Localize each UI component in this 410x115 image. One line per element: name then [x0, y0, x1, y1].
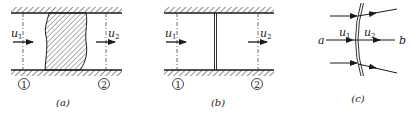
lower-streamline — [330, 63, 397, 73]
bottom-wall — [11, 70, 122, 76]
caption-c: (c) — [351, 93, 365, 104]
outlet-velocity-label: u2 — [108, 27, 120, 41]
bottom-wall — [164, 70, 274, 76]
svg-text:1: 1 — [175, 80, 181, 90]
panel-b: u1 u2 1 2 (b) — [164, 7, 274, 108]
caption-a: (a) — [56, 97, 70, 108]
svg-text:2: 2 — [254, 80, 260, 90]
inlet-velocity-label: u1 — [339, 26, 351, 40]
inlet-velocity-label: u1 — [165, 27, 177, 41]
svg-text:1: 1 — [21, 80, 27, 90]
section-marker-1: 1 — [19, 79, 30, 90]
panel-a: u1 u2 1 2 (a) — [11, 7, 122, 108]
panel-c: a b u1 u2 (c) — [318, 3, 406, 104]
caption-b: (b) — [211, 97, 225, 108]
top-wall — [164, 7, 274, 13]
outlet-velocity-label: u2 — [364, 26, 376, 40]
diagram-figure: u1 u2 1 2 (a) u1 u2 — [0, 0, 410, 115]
point-a-label: a — [318, 34, 325, 47]
discontinuity-plane — [215, 13, 217, 70]
upper-streamline — [330, 9, 397, 16]
point-b-label: b — [399, 34, 406, 47]
top-wall — [11, 7, 122, 13]
section-marker-2: 2 — [99, 79, 110, 90]
svg-text:2: 2 — [101, 80, 107, 90]
outlet-velocity-label: u2 — [260, 27, 272, 41]
section-marker-1: 1 — [173, 79, 184, 90]
inlet-velocity-label: u1 — [11, 27, 23, 41]
section-marker-2: 2 — [252, 79, 263, 90]
wave-region — [45, 13, 87, 70]
